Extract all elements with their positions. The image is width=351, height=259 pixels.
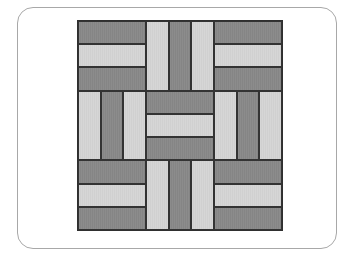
stripe-light <box>191 21 214 91</box>
stripe-light <box>146 114 214 137</box>
quilt-block-r2c2 <box>146 91 214 161</box>
quilt-block-r1c2 <box>146 21 214 91</box>
quilt-block-r2c3 <box>214 91 282 161</box>
stripe-light <box>146 21 169 91</box>
quilt-pattern <box>77 20 283 231</box>
stripe-dark <box>214 21 282 44</box>
quilt-block-r3c3 <box>214 160 282 230</box>
quilt-block-r3c2 <box>146 160 214 230</box>
stripe-light <box>78 91 101 161</box>
stripe-dark <box>78 21 146 44</box>
stripe-light <box>78 44 146 67</box>
stripe-dark <box>78 207 146 230</box>
stripe-dark <box>214 160 282 183</box>
stripe-dark <box>101 91 124 161</box>
stripe-dark <box>146 137 214 160</box>
stripe-light <box>78 184 146 207</box>
stripe-dark <box>214 67 282 90</box>
quilt-block-r2c1 <box>78 91 146 161</box>
quilt-block-r1c1 <box>78 21 146 91</box>
stripe-light <box>214 184 282 207</box>
stripe-light <box>214 91 237 161</box>
stripe-light <box>123 91 146 161</box>
stripe-dark <box>169 160 192 230</box>
stripe-dark <box>214 207 282 230</box>
stripe-dark <box>146 91 214 114</box>
stripe-light <box>146 160 169 230</box>
stripe-dark <box>78 67 146 90</box>
stripe-light <box>259 91 282 161</box>
stripe-light <box>191 160 214 230</box>
stripe-dark <box>169 21 192 91</box>
quilt-block-r1c3 <box>214 21 282 91</box>
stripe-dark <box>78 160 146 183</box>
stripe-dark <box>237 91 260 161</box>
quilt-block-r3c1 <box>78 160 146 230</box>
stripe-light <box>214 44 282 67</box>
